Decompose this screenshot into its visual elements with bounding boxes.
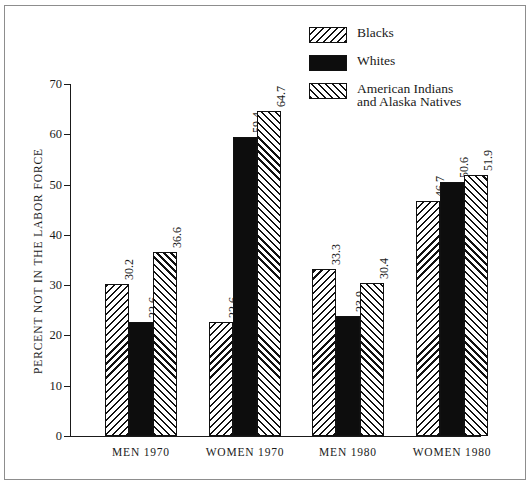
y-tick-label-10: 10 bbox=[18, 380, 62, 392]
legend-label: Whites bbox=[357, 54, 395, 67]
bar-value-label: 30.4 bbox=[378, 258, 390, 279]
bar-blacks-3 bbox=[416, 201, 440, 436]
y-axis-line bbox=[70, 84, 71, 437]
y-tick-label-text: 60 bbox=[26, 128, 62, 140]
chart-page: 010203040506070 PERCENT NOT IN THE LABOR… bbox=[0, 0, 532, 491]
y-tick-10 bbox=[64, 386, 71, 387]
bar-value-label: 64.7 bbox=[275, 86, 287, 107]
y-tick-30 bbox=[64, 285, 71, 286]
bar-whites-2 bbox=[336, 316, 360, 436]
bar-value-label: 30.2 bbox=[123, 259, 135, 280]
legend-swatch-icon bbox=[309, 55, 347, 71]
bar-american-1 bbox=[257, 111, 281, 436]
bar-value-label: 33.3 bbox=[330, 244, 342, 265]
y-tick-0 bbox=[64, 436, 71, 437]
y-tick-20 bbox=[64, 335, 71, 336]
bar-american-2 bbox=[360, 283, 384, 436]
y-tick-label-text: 70 bbox=[26, 78, 62, 90]
x-category-label-0: MEN 1970 bbox=[81, 446, 201, 458]
y-axis-title: PERCENT NOT IN THE LABOR FORCE bbox=[32, 154, 44, 374]
bar-value-label: 51.9 bbox=[482, 150, 494, 171]
legend-swatch-icon bbox=[309, 83, 347, 99]
bar-value-label: 36.6 bbox=[171, 227, 183, 248]
bar-whites-1 bbox=[233, 137, 257, 436]
y-tick-70 bbox=[64, 84, 71, 85]
bar-american-0 bbox=[153, 252, 177, 436]
bar-whites-0 bbox=[129, 322, 153, 436]
y-tick-40 bbox=[64, 235, 71, 236]
y-tick-label-60: 60 bbox=[18, 128, 62, 140]
bar-blacks-1 bbox=[209, 322, 233, 436]
bar-american-3 bbox=[464, 175, 488, 436]
y-tick-label-text: 0 bbox=[26, 430, 62, 442]
x-axis-line bbox=[70, 436, 481, 437]
legend-label: Blacks bbox=[357, 26, 394, 39]
y-tick-60 bbox=[64, 134, 71, 135]
plot-area: 010203040506070 PERCENT NOT IN THE LABOR… bbox=[0, 0, 532, 491]
y-tick-label-70: 70 bbox=[18, 78, 62, 90]
legend-swatch-icon bbox=[309, 27, 347, 43]
y-tick-label-0: 0 bbox=[18, 430, 62, 442]
bar-whites-3 bbox=[440, 182, 464, 436]
x-category-label-3: WOMEN 1980 bbox=[392, 446, 512, 458]
bar-blacks-0 bbox=[105, 284, 129, 436]
x-category-label-1: WOMEN 1970 bbox=[185, 446, 305, 458]
legend-label: American Indiansand Alaska Natives bbox=[357, 82, 461, 108]
legend-label-line2: and Alaska Natives bbox=[357, 95, 461, 108]
bar-blacks-2 bbox=[312, 269, 336, 436]
y-tick-50 bbox=[64, 185, 71, 186]
x-category-label-2: MEN 1980 bbox=[288, 446, 408, 458]
y-tick-label-text: 10 bbox=[26, 380, 62, 392]
